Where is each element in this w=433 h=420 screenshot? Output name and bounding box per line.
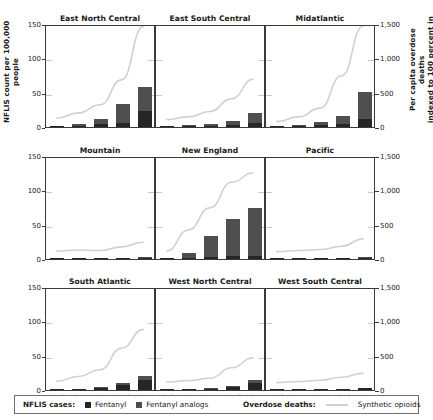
y-axis-title-right: Per capita overdose deaths indexed to 10… bbox=[408, 14, 432, 126]
legend-swatch-fentanyl bbox=[85, 402, 91, 408]
synthetic-opioids-line bbox=[266, 26, 374, 127]
y-tick-label: 100 bbox=[17, 55, 41, 63]
plot-area bbox=[265, 288, 375, 391]
y-tick-mark bbox=[42, 128, 46, 129]
y-tick-mark bbox=[42, 260, 46, 261]
plot-area bbox=[155, 157, 265, 260]
panel-title: South Atlantic bbox=[45, 277, 155, 286]
panel-title: New England bbox=[155, 146, 265, 155]
chart-panel: West South Central bbox=[265, 277, 375, 392]
y-tick-label: 500 bbox=[380, 90, 393, 98]
y-tick-label: 50 bbox=[17, 90, 41, 98]
plot-area bbox=[265, 25, 375, 128]
y-tick-label: 1,000 bbox=[380, 55, 400, 63]
plot-area bbox=[45, 157, 155, 260]
y-tick-mark bbox=[375, 391, 379, 392]
y-tick-mark bbox=[375, 288, 379, 289]
y-tick-mark bbox=[42, 391, 46, 392]
y-tick-label: 0 bbox=[17, 387, 41, 395]
synthetic-opioids-line bbox=[46, 289, 154, 390]
y-tick-mark bbox=[375, 157, 379, 158]
y-tick-mark bbox=[375, 357, 379, 358]
plot-area bbox=[265, 157, 375, 260]
y-tick-mark bbox=[42, 25, 46, 26]
synthetic-opioids-line bbox=[46, 26, 154, 127]
y-tick-label: 150 bbox=[17, 21, 41, 29]
chart-panel: East South Central bbox=[155, 14, 265, 129]
y-tick-mark bbox=[375, 226, 379, 227]
y-tick-label: 0 bbox=[17, 124, 41, 132]
y-tick-mark bbox=[42, 94, 46, 95]
panel-title: Pacific bbox=[265, 146, 375, 155]
legend-swatch-synthetic-line bbox=[326, 404, 348, 406]
chart-panel: New England bbox=[155, 146, 265, 261]
y-tick-label: 1,000 bbox=[380, 187, 400, 195]
y-tick-mark bbox=[42, 191, 46, 192]
chart-panel: Pacific bbox=[265, 146, 375, 261]
y-tick-mark bbox=[375, 322, 379, 323]
chart-panel: West North Central bbox=[155, 277, 265, 392]
y-tick-label: 1,000 bbox=[380, 318, 400, 326]
panel-title: East North Central bbox=[45, 14, 155, 23]
y-tick-label: 500 bbox=[380, 353, 393, 361]
y-axis-title-left: NFLIS count per 100,000 people bbox=[2, 18, 18, 126]
y-tick-label: 50 bbox=[17, 222, 41, 230]
legend-deaths-label: Overdose deaths: bbox=[243, 400, 316, 409]
y-tick-mark bbox=[375, 260, 379, 261]
legend-swatch-analogs bbox=[136, 402, 142, 408]
panel-title: West South Central bbox=[265, 277, 375, 286]
y-tick-label: 0 bbox=[380, 124, 384, 132]
legend-text-fentanyl: Fentanyl bbox=[95, 400, 126, 409]
y-tick-label: 1,500 bbox=[380, 21, 400, 29]
legend-text-synthetic: Synthetic opioids bbox=[358, 400, 421, 409]
y-tick-mark bbox=[42, 226, 46, 227]
y-tick-mark bbox=[42, 59, 46, 60]
legend-nflis-label: NFLIS cases: bbox=[23, 400, 75, 409]
legend-text-analogs: Fentanyl analogs bbox=[146, 400, 208, 409]
synthetic-opioids-line bbox=[156, 289, 264, 390]
plot-area bbox=[155, 288, 265, 391]
y-tick-label: 100 bbox=[17, 318, 41, 326]
synthetic-opioids-line bbox=[156, 158, 264, 259]
panel-title: Midatlantic bbox=[265, 14, 375, 23]
y-tick-mark bbox=[375, 191, 379, 192]
legend-group-deaths: Overdose deaths: Synthetic opioids bbox=[243, 396, 420, 413]
y-tick-label: 0 bbox=[380, 387, 384, 395]
y-tick-mark bbox=[42, 357, 46, 358]
chart-panel: Mountain bbox=[45, 146, 155, 261]
panel-title: East South Central bbox=[155, 14, 265, 23]
plot-area bbox=[45, 288, 155, 391]
y-tick-label: 0 bbox=[17, 256, 41, 264]
y-tick-mark bbox=[375, 59, 379, 60]
chart-panel: South Atlantic bbox=[45, 277, 155, 392]
y-tick-mark bbox=[375, 25, 379, 26]
synthetic-opioids-line bbox=[156, 26, 264, 127]
chart-panel: East North Central bbox=[45, 14, 155, 129]
chart-panel: Midatlantic bbox=[265, 14, 375, 129]
panel-title: Mountain bbox=[45, 146, 155, 155]
y-tick-mark bbox=[42, 288, 46, 289]
y-tick-label: 150 bbox=[17, 284, 41, 292]
plot-area bbox=[45, 25, 155, 128]
legend-group-nflis: NFLIS cases: Fentanyl Fentanyl analogs bbox=[23, 396, 208, 413]
y-tick-mark bbox=[42, 322, 46, 323]
chart-root: NFLIS count per 100,000 people Per capit… bbox=[0, 0, 433, 420]
y-tick-label: 1,500 bbox=[380, 284, 400, 292]
y-tick-label: 100 bbox=[17, 187, 41, 195]
y-tick-mark bbox=[375, 94, 379, 95]
y-tick-label: 500 bbox=[380, 222, 393, 230]
panel-title: West North Central bbox=[155, 277, 265, 286]
chart-legend: NFLIS cases: Fentanyl Fentanyl analogs O… bbox=[14, 395, 419, 414]
y-tick-mark bbox=[42, 157, 46, 158]
y-tick-label: 0 bbox=[380, 256, 384, 264]
synthetic-opioids-line bbox=[266, 158, 374, 259]
plot-area bbox=[155, 25, 265, 128]
y-tick-label: 1,500 bbox=[380, 153, 400, 161]
y-tick-label: 150 bbox=[17, 153, 41, 161]
synthetic-opioids-line bbox=[46, 158, 154, 259]
y-tick-label: 50 bbox=[17, 353, 41, 361]
y-tick-mark bbox=[375, 128, 379, 129]
synthetic-opioids-line bbox=[266, 289, 374, 390]
